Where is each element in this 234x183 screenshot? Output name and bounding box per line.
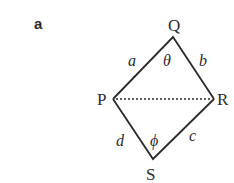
quadrilateral-diagram: a Q P R S a b c d θ ϕ — [0, 0, 234, 183]
vertex-label-r: R — [217, 90, 229, 109]
side-label-b: b — [199, 52, 207, 69]
side-label-d: d — [116, 132, 125, 149]
angle-label-theta: θ — [163, 52, 171, 69]
vertex-label-p: P — [97, 90, 106, 109]
edge-ps-sr — [113, 99, 214, 159]
angle-label-phi: ϕ — [150, 132, 158, 150]
vertex-label-q: Q — [168, 16, 180, 35]
vertex-label-s: S — [146, 165, 155, 183]
side-label-a: a — [128, 52, 136, 69]
side-label-c: c — [189, 127, 196, 144]
panel-label: a — [34, 15, 43, 32]
